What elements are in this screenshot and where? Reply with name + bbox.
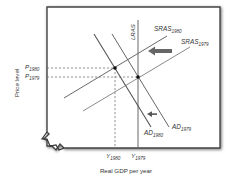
lras-label: LRAS [130, 24, 136, 40]
y1979-label: Y1979 [131, 152, 146, 161]
equilibrium-1980-point [113, 66, 117, 70]
equilibrium-1979-point [136, 75, 140, 79]
p1979-label: P1979 [25, 72, 40, 81]
x-axis-label: Real GDP per year [100, 167, 152, 174]
y1980-label: Y1980 [106, 152, 121, 161]
y-axis-label: Price level [13, 69, 20, 98]
p1980-label: P1980 [25, 63, 40, 72]
as-ad-diagram: LRAS SRAS1980 SRAS1979 AD1980 AD1979 P19… [0, 0, 235, 187]
